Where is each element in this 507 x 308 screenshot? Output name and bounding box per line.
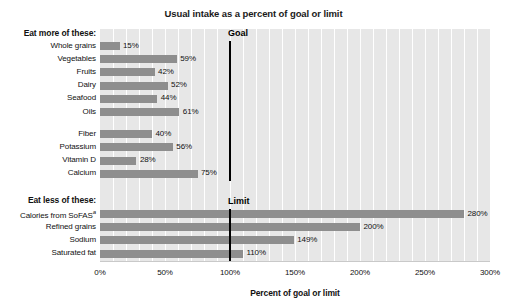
bar xyxy=(100,55,177,63)
bar-row-label: Refined grains xyxy=(0,222,96,231)
bar-row-label: Vitamin D xyxy=(0,155,96,164)
bar-row-label: Sodium xyxy=(0,235,96,244)
bar-value-label: 75% xyxy=(201,168,217,177)
bar-row-label: Saturated fat xyxy=(0,248,96,257)
bar-row-label: Fiber xyxy=(0,129,96,138)
chart-container: Usual intake as a percent of goal or lim… xyxy=(0,0,507,308)
x-tick-label: 300% xyxy=(465,268,507,277)
bar xyxy=(100,210,464,218)
reference-line-label-goal: Goal xyxy=(228,28,248,38)
bar xyxy=(100,42,120,50)
bar-value-label: 28% xyxy=(140,155,156,164)
bar xyxy=(100,236,294,244)
reference-line-label-limit: Limit xyxy=(228,196,250,206)
gridline xyxy=(399,29,400,261)
bar-value-label: 61% xyxy=(183,107,199,116)
gridline xyxy=(386,29,387,261)
reference-line-goal xyxy=(229,41,231,181)
x-axis-line xyxy=(100,261,490,262)
x-tick-label: 250% xyxy=(400,268,450,277)
bar-value-label: 44% xyxy=(161,93,177,102)
section-heading-eat-less: Eat less of these: xyxy=(0,195,96,205)
x-axis-label: Percent of goal or limit xyxy=(100,288,490,298)
gridline xyxy=(425,29,426,261)
bar-row-label: Potassium xyxy=(0,142,96,151)
x-tick-label: 0% xyxy=(75,268,125,277)
bar-value-label: 42% xyxy=(158,67,174,76)
x-tick-label: 200% xyxy=(335,268,385,277)
bar xyxy=(100,157,136,165)
bar-row-label: Vegetables xyxy=(0,54,96,63)
bar-value-label: 200% xyxy=(364,222,384,231)
bar xyxy=(100,68,155,76)
bar xyxy=(100,170,198,178)
chart-title: Usual intake as a percent of goal or lim… xyxy=(0,8,507,19)
bar-value-label: 56% xyxy=(176,142,192,151)
x-tick-label: 150% xyxy=(270,268,320,277)
bar-value-label: 40% xyxy=(156,129,172,138)
x-tick-label: 100% xyxy=(205,268,255,277)
bar-row-label: Whole grains xyxy=(0,41,96,50)
gridline xyxy=(451,29,452,261)
bar xyxy=(100,130,152,138)
bar xyxy=(100,250,243,258)
bar-row-label: Oils xyxy=(0,107,96,116)
gridline xyxy=(438,29,439,261)
bar-row-label: Dairy xyxy=(0,80,96,89)
bar xyxy=(100,82,168,90)
bar xyxy=(100,95,157,103)
bar-row-label: Calories from SoFASa xyxy=(0,209,96,220)
bar-value-label: 149% xyxy=(297,235,317,244)
bar-row-label: Seafood xyxy=(0,93,96,102)
gridline xyxy=(464,29,465,261)
gridline xyxy=(477,29,478,261)
bar-value-label: 15% xyxy=(123,41,139,50)
bar-value-label: 110% xyxy=(247,248,266,257)
section-heading-eat-more: Eat more of these: xyxy=(0,28,96,38)
reference-line-limit xyxy=(229,209,231,261)
gridline xyxy=(360,29,361,261)
x-tick-label: 50% xyxy=(140,268,190,277)
bar-value-label: 280% xyxy=(468,209,488,218)
bar-row-label: Calcium xyxy=(0,168,96,177)
bar xyxy=(100,108,179,116)
bar-value-label: 52% xyxy=(171,80,187,89)
gridline xyxy=(412,29,413,261)
bar-row-label: Fruits xyxy=(0,67,96,76)
bar-value-label: 59% xyxy=(180,54,196,63)
bar xyxy=(100,143,173,151)
